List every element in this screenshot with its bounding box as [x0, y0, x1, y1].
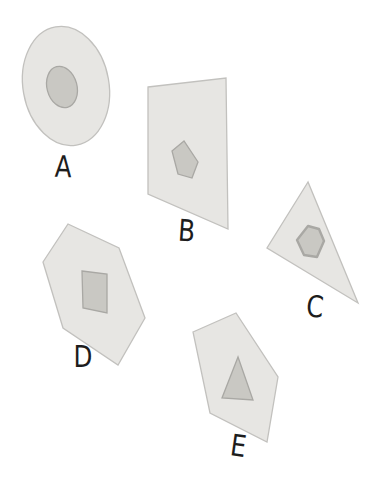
shape-group-D: D: [43, 224, 145, 374]
figure-svg: ABCDE: [0, 0, 380, 485]
shape-E-label: E: [228, 428, 248, 464]
shape-D-label: D: [74, 340, 93, 374]
shape-B-label: B: [177, 213, 196, 248]
shape-group-A: A: [13, 19, 119, 183]
shape-C-label: C: [305, 289, 325, 324]
figure-canvas: ABCDE: [0, 0, 380, 485]
shape-group-C: C: [267, 182, 358, 324]
shape-A-label: A: [54, 149, 72, 183]
shape-group-B: B: [148, 78, 228, 248]
shape-D-inner-square: [82, 271, 107, 313]
shape-group-E: E: [193, 313, 278, 464]
